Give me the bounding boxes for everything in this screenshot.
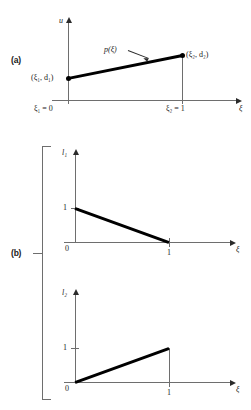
panel-b-l1-y-axis: [75, 154, 76, 242]
panel-a-x-axis-label: ξ: [239, 105, 242, 113]
panel-a-label: (a): [11, 55, 21, 65]
panel-b-l2-y-axis-label: l₂: [62, 289, 67, 297]
panel-a-node-left-marker: [66, 76, 71, 81]
panel-b-l1-y-axis-arrow-icon: [73, 149, 79, 155]
panel-b-label: (b): [11, 248, 21, 258]
panel-b-l1-x-axis: [64, 242, 232, 243]
panel-b-l2-y-axis-arrow-icon: [73, 289, 79, 295]
panel-a-xtick-right-label: ξ₂ = 1: [166, 105, 185, 113]
panel-b-group-brace-tick: [33, 253, 42, 254]
panel-b-l2-ytick-1: [71, 348, 79, 349]
panel-a-y-axis-label: u: [59, 17, 63, 25]
panel-a-curve-annotation: p(ξ): [104, 46, 117, 54]
panel-a-xtick-left-label: ξ₁ = 0: [34, 105, 53, 113]
panel-b-l2-y-axis: [75, 294, 76, 382]
panel-a-node-right-marker: [180, 53, 185, 58]
panel-b-l1-ytick-1-label: 1: [63, 204, 67, 212]
panel-a-node-left-label: (ξ₁, d₁): [31, 74, 53, 82]
panel-b-l1-x-axis-label: ξ: [236, 246, 239, 254]
panel-a-right-drop-line: [182, 56, 183, 100]
panel-a-node-right-label: (ξ₂, d₂): [186, 51, 208, 59]
panel-a-x-axis-arrow-icon: [236, 98, 242, 104]
figure-canvas: (a) u ξ ξ₁ = 0 ξ₂ = 1 (ξ₁, d₁) (ξ₂, d₂) …: [0, 0, 251, 410]
panel-a-curve-p-xi: [68, 54, 183, 80]
panel-b-l2-origin-label: 0: [65, 385, 69, 393]
panel-b-l1-xtick-1-label: 1: [167, 249, 171, 257]
panel-a-x-axis: [52, 100, 238, 101]
panel-b-l1-y-axis-label: l₁: [62, 149, 67, 157]
panel-b-l2-x-axis: [64, 382, 232, 383]
panel-b-l1-origin-label: 0: [65, 245, 69, 253]
panel-a-y-axis-arrow-icon: [66, 17, 72, 23]
panel-b-group-brace: [42, 146, 51, 400]
panel-b-l2-x-axis-label: ξ: [236, 386, 239, 394]
panel-b-l2-xtick-1-label: 1: [167, 389, 171, 397]
panel-b-l2-ytick-1-label: 1: [63, 344, 67, 352]
panel-b-l1-curve: [75, 207, 170, 244]
panel-b-l2-drop-line: [169, 348, 170, 382]
panel-a-y-axis: [68, 22, 69, 101]
panel-b-l2-curve: [75, 347, 170, 384]
panel-b-l1-xtick-1: [169, 238, 170, 247]
panel-a-xtick-left: [68, 97, 69, 104]
